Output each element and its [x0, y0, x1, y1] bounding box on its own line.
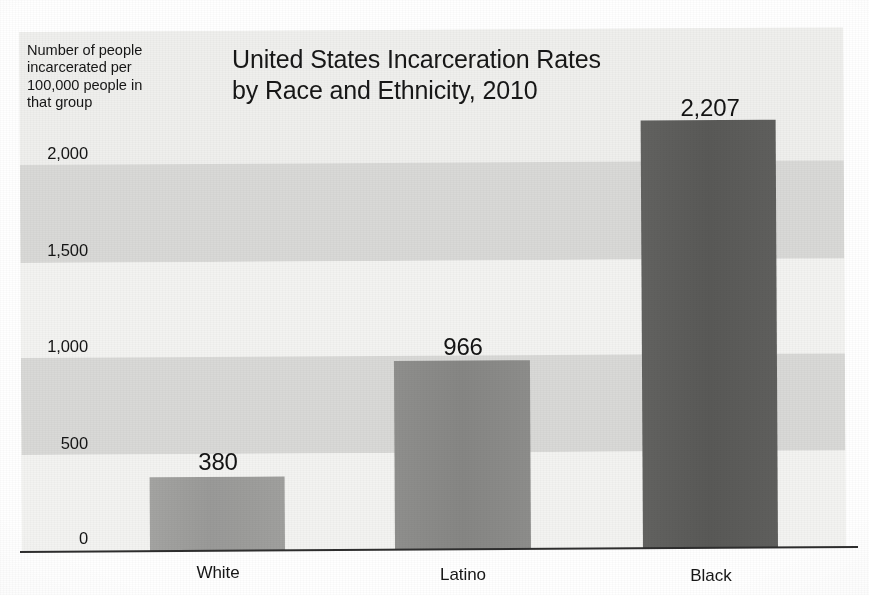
y-tick-1500: 1,500	[20, 241, 88, 260]
y-axis-caption-line-3: 100,000 people in	[27, 77, 207, 94]
chart-title: United States Incarceration Rates by Rac…	[232, 44, 702, 106]
y-tick-1000: 1,000	[20, 337, 88, 356]
value-label-black: 2,207	[641, 94, 779, 122]
chart-title-line-1: United States Incarceration Rates	[232, 44, 702, 75]
y-axis-caption: Number of people incarcerated per 100,00…	[27, 42, 207, 112]
value-label-latino: 966	[395, 333, 531, 361]
y-tick-2000: 2,000	[20, 144, 88, 163]
chart-page: Number of people incarcerated per 100,00…	[0, 0, 869, 595]
y-tick-0: 0	[20, 529, 88, 548]
y-axis-caption-line-2: incarcerated per	[27, 59, 207, 76]
text-layer: Number of people incarcerated per 100,00…	[0, 0, 869, 595]
y-tick-500: 500	[20, 434, 88, 453]
value-label-white: 380	[150, 448, 286, 476]
category-label-white: White	[150, 563, 286, 583]
chart-title-line-2: by Race and Ethnicity, 2010	[232, 75, 702, 106]
category-label-black: Black	[643, 566, 779, 586]
y-axis-caption-line-1: Number of people	[27, 42, 207, 59]
y-axis-caption-line-4: that group	[27, 94, 207, 111]
category-label-latino: Latino	[395, 565, 531, 585]
